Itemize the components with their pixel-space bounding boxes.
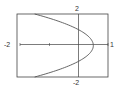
plot-frame [17, 14, 108, 77]
x-max-label: 1 [110, 41, 114, 48]
plot-area [0, 0, 119, 89]
parabola-curve [35, 14, 94, 77]
y-max-label: 2 [75, 5, 79, 12]
y-min-label: -2 [73, 79, 79, 86]
x-min-label: -2 [4, 41, 10, 48]
